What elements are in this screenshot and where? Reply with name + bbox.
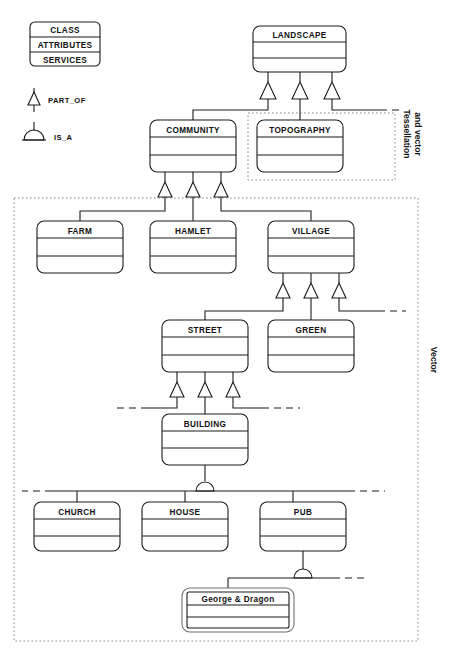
class-label-village: VILLAGE <box>292 227 330 236</box>
class-label-hamlet: HAMLET <box>175 227 211 236</box>
class-box-village[interactable]: VILLAGE <box>268 221 354 273</box>
class-box-house[interactable]: HOUSE <box>142 502 228 551</box>
class-box-building[interactable]: BUILDING <box>162 414 248 465</box>
class-hierarchy-diagram: Tessellation and vector Vector CLASS ATT… <box>0 0 452 660</box>
class-label-green: GREEN <box>296 326 327 335</box>
region-vector-label: Vector <box>429 347 439 374</box>
legend-is-a-label: IS_A <box>54 133 73 142</box>
class-box-farm[interactable]: FARM <box>37 221 123 273</box>
class-label-church: CHURCH <box>58 508 96 517</box>
class-box-church[interactable]: CHURCH <box>34 502 120 551</box>
class-label-street: STREET <box>188 326 222 335</box>
instance-label-george-and-dragon: George & Dragon <box>201 595 274 604</box>
class-label-farm: FARM <box>68 227 93 236</box>
legend-class-box: CLASS ATTRIBUTES SERVICES <box>30 22 100 66</box>
region-tessellation-label-line1: Tessellation <box>402 109 412 158</box>
class-box-street[interactable]: STREET <box>162 320 248 372</box>
class-box-community[interactable]: COMMUNITY <box>150 120 236 172</box>
class-box-topography[interactable]: TOPOGRAPHY <box>257 120 343 172</box>
class-box-pub[interactable]: PUB <box>260 502 346 551</box>
class-label-building: BUILDING <box>184 420 226 429</box>
instance-box-george-and-dragon[interactable]: George & Dragon <box>182 588 294 632</box>
class-box-green[interactable]: GREEN <box>268 320 354 372</box>
class-label-topography: TOPOGRAPHY <box>269 126 331 135</box>
class-label-pub: PUB <box>294 508 312 517</box>
class-label-community: COMMUNITY <box>166 126 220 135</box>
legend-class-name-label: CLASS <box>50 26 80 35</box>
region-tessellation-label-line2: and vector <box>413 112 423 156</box>
legend-class-attributes-label: ATTRIBUTES <box>38 41 93 50</box>
legend-class-services-label: SERVICES <box>43 56 87 65</box>
class-box-landscape[interactable]: LANDSCAPE <box>253 26 346 72</box>
legend-part-of-label: PART_OF <box>48 96 86 105</box>
class-label-house: HOUSE <box>170 508 201 517</box>
class-box-hamlet[interactable]: HAMLET <box>150 221 236 273</box>
class-label-landscape: LANDSCAPE <box>272 31 326 40</box>
